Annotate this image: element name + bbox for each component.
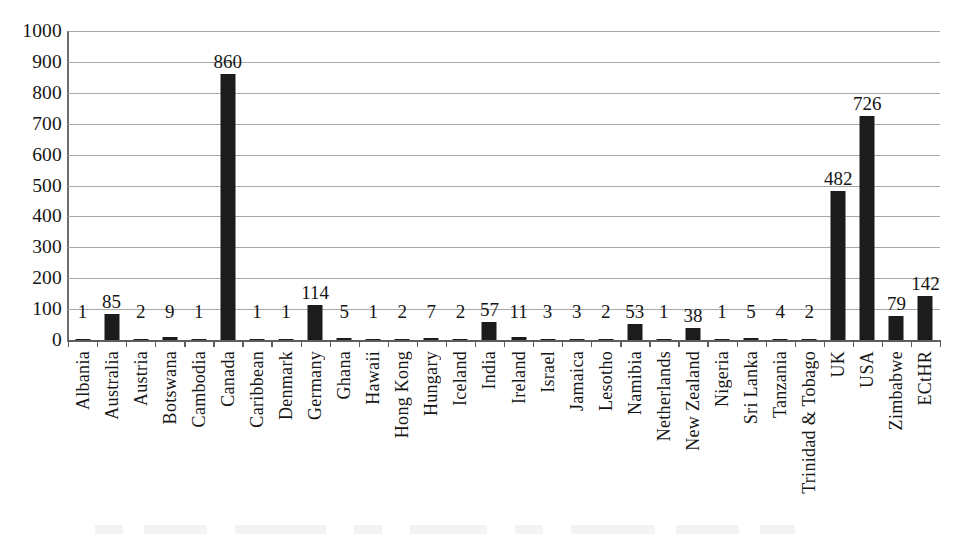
bar[interactable]	[656, 339, 671, 341]
x-axis-tick	[359, 340, 360, 347]
x-axis-category-label: Hawaii	[364, 351, 382, 405]
x-axis-tick	[591, 340, 592, 347]
x-axis-category-label: Trinidad & Tobago	[800, 351, 818, 494]
bar-value-label: 9	[165, 302, 175, 321]
x-axis-tick	[242, 340, 243, 347]
bar[interactable]	[424, 338, 439, 340]
y-axis-tick-label: 300	[0, 238, 62, 258]
x-axis-category-label: New Zealand	[684, 351, 702, 451]
bar-slot: 2	[126, 31, 155, 340]
x-axis-tick	[940, 340, 941, 347]
bar-value-label: 79	[887, 294, 906, 313]
bar[interactable]	[685, 328, 700, 340]
bar-value-label: 114	[301, 283, 329, 302]
x-axis-category-label: Tanzania	[771, 351, 789, 418]
bar-slot: 726	[853, 31, 882, 340]
bar-slot: 1	[359, 31, 388, 340]
bar-value-label: 85	[102, 292, 121, 311]
bar-slot: 3	[533, 31, 562, 340]
x-axis-category-label: Israel	[539, 351, 557, 393]
x-axis-category-label: Lesotho	[597, 351, 615, 411]
bar[interactable]	[191, 339, 206, 341]
x-axis-category-label: Iceland	[451, 351, 469, 406]
plot-area: 1852918601111451272571133253138154248272…	[68, 31, 940, 340]
y-axis-tick-label: 700	[0, 114, 62, 134]
bar-slot: 2	[795, 31, 824, 340]
x-axis-category-label: Zimbabwe	[887, 351, 905, 430]
x-axis-tick	[446, 340, 447, 347]
bar[interactable]	[831, 191, 846, 340]
x-axis-tick	[533, 340, 534, 347]
bar[interactable]	[482, 322, 497, 340]
x-axis-category-label: Germany	[306, 351, 324, 420]
x-axis-category-label: ECtHR	[916, 351, 934, 406]
bar-slot: 1	[242, 31, 271, 340]
x-axis-tick	[911, 340, 912, 347]
bar-value-label: 1	[281, 302, 291, 321]
bar[interactable]	[337, 338, 352, 340]
bar-value-label: 3	[543, 302, 553, 321]
bar-chart: 01002003004005006007008009001000 1852918…	[0, 0, 953, 540]
bar-value-label: 1	[194, 302, 204, 321]
bar[interactable]	[860, 116, 875, 340]
bar-value-label: 1	[659, 302, 669, 321]
bar[interactable]	[162, 337, 177, 340]
bar[interactable]	[395, 339, 410, 341]
bar[interactable]	[278, 339, 293, 341]
bar[interactable]	[511, 337, 526, 340]
bar[interactable]	[540, 339, 555, 341]
x-axis-category-label: Denmark	[277, 351, 295, 420]
y-axis: 01002003004005006007008009001000	[0, 0, 62, 540]
bar-value-label: 2	[601, 302, 611, 321]
bar-slot: 85	[97, 31, 126, 340]
bar-slot: 1	[649, 31, 678, 340]
bar[interactable]	[249, 339, 264, 341]
y-axis-tick-label: 400	[0, 207, 62, 227]
x-axis-category-label: Austria	[132, 351, 150, 406]
bar-value-label: 7	[427, 302, 437, 321]
bar[interactable]	[918, 296, 933, 340]
x-axis-tick	[155, 340, 156, 347]
bar-slot: 1	[271, 31, 300, 340]
x-axis-category-label: Hong Kong	[393, 351, 411, 438]
bar[interactable]	[598, 339, 613, 341]
bar-value-label: 860	[214, 52, 243, 71]
bar[interactable]	[714, 339, 729, 341]
y-axis-tick-label: 500	[0, 176, 62, 196]
bar[interactable]	[220, 74, 235, 340]
bar[interactable]	[744, 338, 759, 340]
bar[interactable]	[75, 339, 90, 341]
bar-value-label: 1	[252, 302, 262, 321]
x-axis-category-label: Sri Lanka	[742, 351, 760, 424]
bar[interactable]	[453, 339, 468, 341]
bar-value-label: 11	[509, 302, 527, 321]
x-axis-tick	[562, 340, 563, 347]
bar-value-label: 2	[136, 302, 146, 321]
bar-slot: 1	[68, 31, 97, 340]
bar-slot: 79	[882, 31, 911, 340]
bar[interactable]	[366, 339, 381, 341]
bar-value-label: 57	[480, 300, 499, 319]
bar-slot: 7	[417, 31, 446, 340]
y-axis-tick-label: 900	[0, 52, 62, 72]
x-axis-tick	[678, 340, 679, 347]
bar-slot: 1	[707, 31, 736, 340]
bar-value-label: 2	[456, 302, 466, 321]
x-axis-tick	[707, 340, 708, 347]
bars: 1852918601111451272571133253138154248272…	[68, 31, 940, 340]
x-axis-category-label: Namibia	[626, 351, 644, 415]
bar[interactable]	[889, 316, 904, 340]
bar-value-label: 53	[625, 302, 644, 321]
bar[interactable]	[569, 339, 584, 341]
x-axis-category-label: Australia	[103, 351, 121, 420]
bar-slot: 2	[591, 31, 620, 340]
bar[interactable]	[308, 305, 323, 340]
bar[interactable]	[133, 339, 148, 341]
bar[interactable]	[802, 339, 817, 341]
bar-slot: 5	[330, 31, 359, 340]
bar[interactable]	[773, 339, 788, 341]
bar-slot: 2	[446, 31, 475, 340]
bar[interactable]	[104, 314, 119, 340]
x-axis-category-label: Ireland	[510, 351, 528, 404]
bar[interactable]	[627, 324, 642, 340]
